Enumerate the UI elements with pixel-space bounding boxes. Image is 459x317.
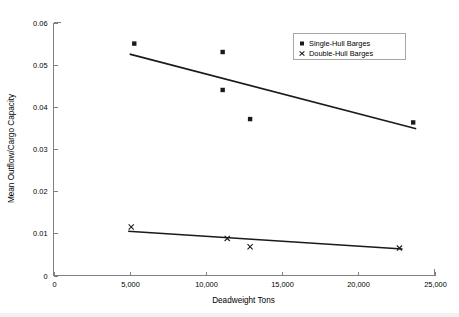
trendline-x [128,231,402,249]
x-tick-label: 10,000 [195,280,218,289]
x-axis-ticks [55,272,436,276]
y-tick-label: 0.05 [33,61,47,70]
y-axis-tick-labels: 00.010.020.030.040.050.06 [33,19,47,281]
legend-label-single-hull: Single-Hull Barges [309,39,371,48]
trendline-square [130,54,417,129]
legend-label-double-hull: Double-Hull Barges [309,49,373,58]
chart-container: 00.010.020.030.040.050.06 05,00010,00015… [0,0,459,317]
x-axis-tick-labels: 05,00010,00015,00020,00025,000 [52,280,446,289]
y-axis-ticks [54,24,58,277]
x-tick-label: 20,000 [347,280,370,289]
x-tick-label: 0 [52,280,56,289]
data-point-square [220,88,224,92]
y-tick-label: 0.03 [33,145,47,154]
data-point-square [220,50,224,54]
y-axis-title: Mean Outflow/Cargo Capacity [7,93,16,203]
trendlines-group [128,54,416,249]
data-points-group [129,41,416,250]
x-tick-label: 25,000 [424,280,447,289]
data-point-square [248,117,252,121]
legend: Single-Hull Barges Double-Hull Barges [294,34,406,60]
data-point-x [129,224,134,229]
legend-marker-square-icon [300,42,304,46]
x-tick-label: 15,000 [271,280,294,289]
y-tick-label: 0.06 [33,19,47,28]
page-edge-artifact [0,313,459,317]
y-tick-label: 0.04 [33,103,47,112]
data-point-x [247,244,252,249]
data-point-square [132,41,136,45]
y-tick-label: 0 [43,272,47,281]
x-tick-label: 5,000 [121,280,140,289]
y-tick-label: 0.02 [33,187,47,196]
scatter-chart: 00.010.020.030.040.050.06 05,00010,00015… [0,0,459,317]
axes-group [54,23,435,276]
data-point-square [411,120,415,124]
y-tick-label: 0.01 [33,229,47,238]
x-axis-title: Deadweight Tons [212,296,275,305]
